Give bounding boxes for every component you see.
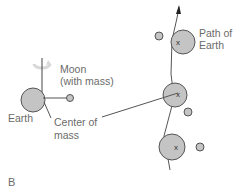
direction-arrow-icon: [176, 5, 181, 14]
center-of-mass-line: [102, 93, 178, 117]
moon-left: [67, 95, 74, 102]
moon-sublabel: (with mass): [60, 75, 114, 87]
center-of-mass-sublabel: mass: [54, 129, 79, 141]
earth-label: Earth: [8, 112, 33, 124]
earth-position-3: [159, 134, 185, 160]
center-of-mass-pointer: [44, 102, 51, 118]
earth-position-2: [163, 83, 187, 107]
moon-label: Moon: [60, 63, 86, 75]
path-of-earth-label: Path of: [199, 27, 232, 39]
path-of-earth-sublabel: Earth: [199, 39, 224, 51]
earth-position-1: [171, 30, 195, 54]
panel-label: B: [8, 176, 15, 188]
moon-position-1: [155, 32, 163, 40]
cross-marker: x: [176, 90, 180, 99]
earth-left: [21, 88, 45, 112]
moon-position-2: [184, 108, 192, 116]
cross-marker: x: [176, 38, 180, 47]
cross-marker: x: [174, 143, 178, 152]
center-of-mass-label: Center of: [54, 116, 97, 128]
moon-position-3: [196, 143, 204, 151]
